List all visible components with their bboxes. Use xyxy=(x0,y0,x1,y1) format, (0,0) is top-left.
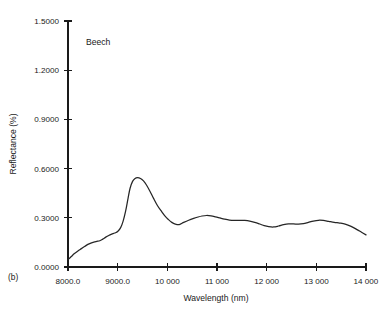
figure-panel: 0.00000.30000.60000.90001.20001.5000 800… xyxy=(0,0,383,316)
x-tick-label: 13 000 xyxy=(304,277,329,286)
y-tick-label: 0.0000 xyxy=(34,263,59,272)
reflectance-line-chart: 0.00000.30000.60000.90001.20001.5000 800… xyxy=(0,0,383,316)
x-tick-label: 9000.0 xyxy=(105,277,130,286)
y-axis-title: Reflectance (%) xyxy=(8,113,18,174)
y-tick-label: 1.2000 xyxy=(34,66,59,75)
x-tick-label: 8000.0 xyxy=(56,277,81,286)
y-tick-label: 1.5000 xyxy=(34,17,59,26)
series-annotation-beech: Beech xyxy=(86,37,111,47)
x-tick-label: 10 000 xyxy=(155,277,180,286)
x-tick-label: 12 000 xyxy=(254,277,279,286)
panel-label: (b) xyxy=(8,272,18,282)
x-tick-label: 11 000 xyxy=(205,277,230,286)
x-axis-title: Wavelength (nm) xyxy=(183,293,248,303)
y-tick-label: 0.9000 xyxy=(34,115,59,124)
series-line-beech xyxy=(68,178,366,260)
x-axis-tick-labels: 8000.09000.010 00011 00012 00013 00014 0… xyxy=(56,277,379,286)
y-axis-tick-labels: 0.00000.30000.60000.90001.20001.5000 xyxy=(34,17,59,272)
y-tick-label: 0.3000 xyxy=(34,214,59,223)
y-tick-label: 0.6000 xyxy=(34,165,59,174)
x-tick-label: 14 000 xyxy=(354,277,379,286)
